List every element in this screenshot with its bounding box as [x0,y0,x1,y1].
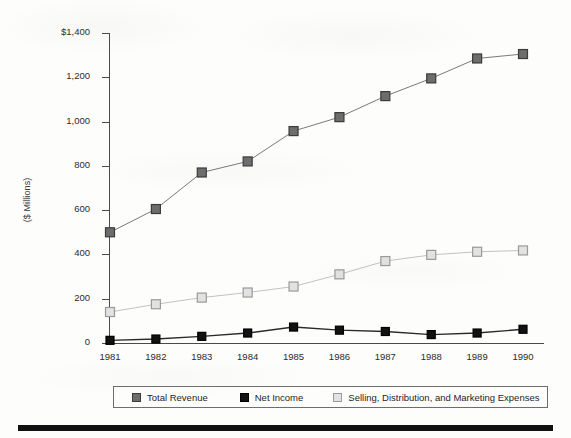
x-axis-line [109,343,544,344]
data-point-marker [335,270,344,279]
data-point-marker [335,326,343,334]
data-point-marker [519,50,528,59]
x-axis-tick-label: 1982 [133,351,179,362]
legend-swatch-icon [132,393,141,402]
legend-item[interactable]: Total Revenue [132,392,208,403]
data-point-marker [106,228,115,237]
data-point-marker [427,331,435,339]
data-point-marker [473,54,482,63]
data-point-marker [381,92,390,101]
data-point-marker [519,246,528,255]
bottom-rule [18,425,553,431]
x-axis-tick-label: 1990 [500,351,546,362]
y-axis-tick-label: $1,400 [30,26,90,37]
legend-item[interactable]: Selling, Distribution, and Marketing Exp… [333,392,539,403]
data-point-marker [151,300,160,309]
data-point-marker [243,288,252,297]
x-axis-tick-label: 1986 [316,351,362,362]
series-line [110,327,523,340]
y-axis-tick: 400 [102,254,110,255]
series-line [110,250,523,312]
x-axis-tick-label: 1981 [87,351,133,362]
data-point-marker [244,329,252,337]
y-axis-tick-label: 0 [30,336,90,347]
legend-item[interactable]: Net Income [240,392,304,403]
y-axis-tick-label: 400 [30,247,90,258]
y-axis-tick-label: 1,200 [30,70,90,81]
data-point-marker [427,250,436,259]
line-chart-figure: ($ Millions) 02004006008001,0001,200$1,4… [0,0,571,438]
data-point-marker [289,127,298,136]
data-point-marker [473,247,482,256]
legend-item-label: Total Revenue [147,392,208,403]
data-point-marker [427,74,436,83]
y-axis-tick: 200 [102,299,110,300]
data-point-marker [289,282,298,291]
x-axis-tick-label: 1988 [408,351,454,362]
x-axis-tick-label: 1989 [454,351,500,362]
data-point-marker [152,335,160,343]
x-axis-tick-label: 1987 [362,351,408,362]
y-axis-tick: $1,400 [102,33,110,34]
x-axis-tick-label: 1983 [179,351,225,362]
chart-legend: Total RevenueNet IncomeSelling, Distribu… [113,386,548,408]
plot-area: 02004006008001,0001,200$1,400 1981198219… [110,33,523,343]
y-axis-tick-label: 600 [30,203,90,214]
legend-item-label: Net Income [255,392,304,403]
y-axis-tick-label: 200 [30,292,90,303]
y-axis-tick: 1,200 [102,77,110,78]
x-axis-tick-label: 1984 [225,351,271,362]
y-axis-tick: 600 [102,210,110,211]
data-point-marker [519,325,527,333]
x-axis-tick-label: 1985 [271,351,317,362]
y-axis-tick-label: 1,000 [30,115,90,126]
data-point-marker [151,205,160,214]
series-line [110,54,523,232]
data-point-marker [106,336,114,344]
y-axis-tick: 1,000 [102,122,110,123]
legend-swatch-icon [240,393,249,402]
data-point-marker [198,332,206,340]
data-point-marker [106,308,115,317]
y-axis-tick: 800 [102,166,110,167]
data-point-marker [381,327,389,335]
data-point-marker [290,323,298,331]
data-point-marker [243,157,252,166]
series-plot [110,33,523,343]
legend-item-label: Selling, Distribution, and Marketing Exp… [348,392,539,403]
data-point-marker [473,329,481,337]
data-point-marker [197,293,206,302]
data-point-marker [197,168,206,177]
legend-swatch-icon [333,393,342,402]
y-axis-tick-label: 800 [30,159,90,170]
data-point-marker [335,113,344,122]
data-point-marker [381,257,390,266]
